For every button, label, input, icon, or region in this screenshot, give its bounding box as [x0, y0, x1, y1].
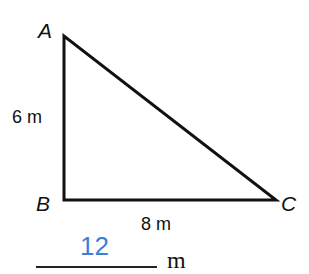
answer-blank-line	[36, 266, 157, 268]
answer-unit: m	[167, 248, 186, 272]
side-label-ab: 6 m	[12, 108, 42, 126]
vertex-label-b: B	[36, 193, 50, 214]
vertex-label-a: A	[38, 20, 52, 41]
side-label-bc: 8 m	[141, 215, 171, 233]
answer-value: 12	[80, 233, 109, 259]
triangle-abc	[64, 36, 276, 200]
vertex-label-c: C	[281, 193, 296, 214]
